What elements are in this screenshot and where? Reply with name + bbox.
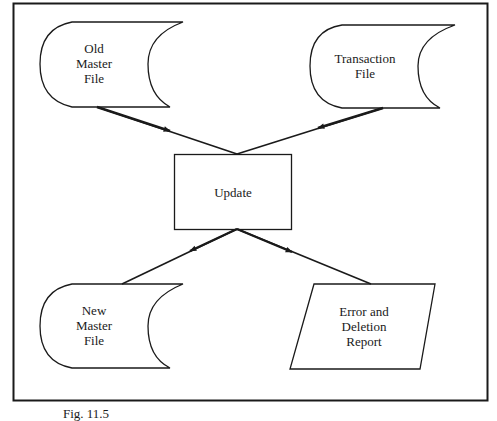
old-master-file-label: Old Master File [76,41,112,86]
update-label: Update [214,185,252,200]
transaction-file-label: Transaction File [335,51,396,81]
figure-caption: Fig. 11.5 [63,406,109,421]
error-deletion-report-label: Error and Deletion Report [339,304,388,349]
new-master-file-label: New Master File [76,303,112,348]
